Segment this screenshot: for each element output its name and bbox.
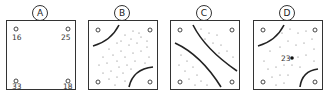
grid-square-c: [170, 20, 240, 90]
value-bottom-right: 18: [63, 82, 73, 91]
contour-plot-b: [89, 21, 159, 91]
panel-label-a: A: [32, 5, 48, 21]
panel-b: B: [82, 0, 162, 95]
center-value: 23: [281, 54, 291, 63]
value-top-right: 25: [61, 33, 71, 42]
panel-a: A 16 25 33 18: [0, 0, 80, 95]
grid-square-a: 16 25 33 18: [6, 20, 76, 90]
grid-square-d: 23: [253, 20, 323, 90]
grid-square-b: [88, 20, 158, 90]
panel-c: C: [164, 0, 244, 95]
panel-label-d: D: [279, 5, 295, 21]
contour-plot-c: [171, 21, 241, 91]
panel-d: D 23: [247, 0, 327, 95]
panel-label-c: C: [196, 5, 212, 21]
value-bottom-left: 33: [12, 82, 22, 91]
panel-label-b: B: [114, 5, 130, 21]
value-top-left: 16: [12, 33, 22, 42]
corner-points-a: [7, 21, 77, 91]
